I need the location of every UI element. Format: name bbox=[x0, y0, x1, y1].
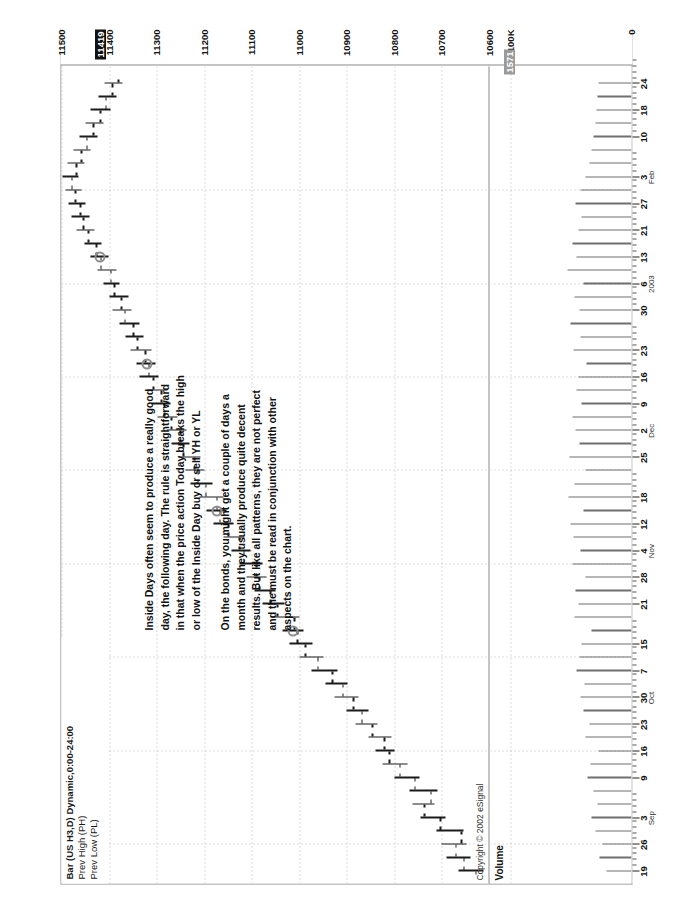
date-axis-minor-tick bbox=[633, 391, 637, 392]
date-gridline bbox=[62, 376, 489, 377]
volume-bar bbox=[573, 349, 631, 350]
volume-bar bbox=[595, 122, 631, 123]
annotation-paragraph-2: On the bonds, you might get a couple of … bbox=[218, 390, 296, 630]
ohlc-open-tick bbox=[342, 684, 344, 687]
volume-bar bbox=[587, 362, 632, 363]
date-axis-label: 9 bbox=[638, 401, 649, 406]
date-axis-label: 24 bbox=[638, 78, 649, 89]
date-axis-minor-tick bbox=[633, 679, 637, 680]
date-axis-minor-tick bbox=[633, 586, 637, 587]
volume-bar bbox=[573, 536, 631, 537]
ohlc-close-tick bbox=[114, 292, 116, 295]
volume-bar bbox=[572, 242, 631, 243]
date-axis-minor-tick bbox=[633, 591, 637, 592]
volume-plot-area[interactable] bbox=[491, 66, 632, 883]
date-axis-minor-tick bbox=[633, 832, 637, 833]
annotation-line: aspects on the chart. bbox=[280, 390, 296, 630]
ohlc-bar bbox=[109, 295, 128, 297]
volume-bar bbox=[576, 429, 632, 430]
date-axis-minor-tick bbox=[633, 86, 637, 87]
volume-bar bbox=[594, 135, 632, 136]
ohlc-open-tick bbox=[389, 751, 391, 754]
date-gridline bbox=[62, 283, 489, 284]
date-axis-minor-tick bbox=[633, 799, 637, 800]
date-axis-minor-tick bbox=[633, 124, 637, 125]
ohlc-close-tick bbox=[92, 132, 94, 135]
volume-bar bbox=[582, 643, 632, 644]
price-gridline bbox=[394, 66, 395, 883]
date-axis-minor-tick bbox=[633, 473, 637, 474]
date-axis-minor-tick bbox=[633, 71, 637, 72]
price-axis-tick-label: 10900 bbox=[341, 29, 352, 55]
volume-bar bbox=[567, 269, 631, 270]
date-axis-minor-tick bbox=[633, 858, 637, 859]
date-axis-minor-tick bbox=[633, 544, 637, 545]
ohlc-open-tick bbox=[145, 350, 147, 353]
date-axis-minor-tick bbox=[633, 759, 637, 760]
price-axis-tick-label: 11100 bbox=[246, 29, 257, 54]
date-axis-minor-tick bbox=[633, 65, 637, 66]
ohlc-bar bbox=[335, 696, 359, 698]
date-axis-minor-tick bbox=[633, 532, 637, 533]
volume-bar bbox=[599, 750, 632, 751]
date-axis-minor-tick bbox=[633, 738, 637, 739]
date-axis-minor-tick bbox=[633, 103, 637, 104]
date-axis-minor-tick bbox=[633, 92, 637, 93]
date-axis-label: 18 bbox=[638, 492, 649, 503]
ohlc-open-tick bbox=[86, 137, 88, 140]
date-axis-minor-tick bbox=[633, 439, 637, 440]
price-axis-last-price-label[interactable]: 11419 bbox=[95, 29, 106, 59]
date-axis-minor-tick bbox=[633, 326, 637, 327]
date-axis-minor-tick bbox=[633, 626, 637, 627]
volume-bar bbox=[568, 496, 631, 497]
date-axis-minor-tick bbox=[633, 97, 637, 98]
price-axis-tick-label: 10600 bbox=[484, 29, 495, 55]
volume-bar bbox=[575, 483, 632, 484]
date-gridline bbox=[62, 750, 489, 751]
price-gridline bbox=[204, 66, 205, 883]
ohlc-open-tick bbox=[361, 711, 363, 714]
ohlc-open-tick bbox=[414, 777, 416, 780]
volume-bar bbox=[577, 389, 632, 390]
price-axis-tick-label: 10700 bbox=[436, 29, 447, 55]
volume-axis-zero-label: 0 bbox=[626, 29, 637, 34]
volume-bar bbox=[582, 216, 632, 217]
date-axis[interactable]: 1926391623307152128412182529162330613212… bbox=[633, 66, 656, 883]
ohlc-close-tick bbox=[133, 332, 135, 335]
volume-axis-last-value-label[interactable]: 1571 bbox=[504, 49, 515, 74]
date-axis-minor-tick bbox=[633, 652, 637, 653]
price-axis[interactable]: 1150011400113001120011100110001090010800… bbox=[61, 27, 633, 65]
date-axis-minor-tick bbox=[633, 379, 637, 380]
ohlc-open-tick bbox=[83, 217, 85, 220]
ohlc-close-tick bbox=[424, 813, 426, 816]
ohlc-bar bbox=[311, 669, 337, 671]
date-axis-minor-tick bbox=[633, 292, 637, 293]
ohlc-open-tick bbox=[353, 697, 355, 700]
price-pane[interactable]: Inside Days often seem to produce a real… bbox=[62, 66, 490, 883]
annotation-line: month and they usually produce quite dec… bbox=[233, 390, 249, 630]
date-axis-minor-tick bbox=[633, 631, 637, 632]
date-axis-minor-tick bbox=[633, 570, 637, 571]
price-axis-tick-label: 11500 bbox=[56, 29, 67, 55]
volume-axis-tick-label: 100K bbox=[505, 29, 516, 52]
volume-pane[interactable]: Copyright © 2002 eSignal Volume bbox=[491, 66, 632, 883]
date-axis-month-label: 2003 bbox=[647, 275, 656, 293]
volume-bar bbox=[594, 790, 632, 791]
date-axis-minor-tick bbox=[633, 332, 637, 333]
date-axis-minor-tick bbox=[633, 450, 637, 451]
date-axis-minor-tick bbox=[633, 298, 637, 299]
ohlc-open-tick bbox=[81, 150, 83, 153]
date-axis-label: 9 bbox=[638, 775, 649, 780]
date-axis-minor-tick bbox=[633, 277, 637, 278]
date-axis-minor-tick bbox=[633, 424, 637, 425]
price-gridline bbox=[109, 66, 110, 883]
ohlc-close-tick bbox=[86, 145, 88, 148]
ohlc-close-tick bbox=[297, 639, 299, 642]
date-axis-minor-tick bbox=[633, 864, 637, 865]
ohlc-open-tick bbox=[71, 177, 73, 180]
volume-bar bbox=[581, 696, 632, 697]
ohlc-bar bbox=[99, 95, 117, 97]
date-axis-minor-tick bbox=[633, 353, 637, 354]
legend-prev-low: Prev Low (PL) bbox=[88, 641, 100, 879]
date-gridline bbox=[62, 843, 489, 844]
